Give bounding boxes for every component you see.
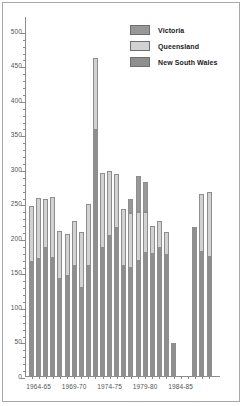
y-axis-label: 100 [4,303,22,310]
bar-segment-new-south-wales [72,266,77,376]
bar-segment-new-south-wales [114,228,119,376]
bar-segment-queensland [57,231,62,279]
x-tick [88,376,89,379]
y-tick [23,143,25,144]
y-tick [23,150,25,151]
bar-1977-78 [128,199,133,376]
y-tick [23,261,25,262]
bar-segment-queensland [143,212,148,253]
bar-1967-68 [57,231,62,376]
y-axis-label: 350 [4,131,22,138]
bar-1987-88 [199,194,204,376]
bar-segment-new-south-wales [50,258,55,376]
x-tick [103,376,104,379]
bar-segment-new-south-wales [192,227,197,376]
bar-segment-new-south-wales [136,261,141,376]
bar-1979-80 [143,182,148,376]
y-tick [23,95,25,96]
x-tick [145,376,146,379]
bar-segment-new-south-wales [150,254,155,376]
x-tick [188,376,189,379]
y-axis-label: 0 [4,373,22,380]
bar-segment-queensland [136,212,141,261]
bar-segment-queensland [164,232,169,255]
bar-1971-72 [86,204,91,376]
bar-1980-81 [150,226,155,376]
y-tick [23,88,25,89]
y-tick [23,219,25,220]
bar-segment-queensland [128,213,133,268]
y-tick [23,109,25,110]
y-axis-label: 50 [4,338,22,345]
chart-legend: Victoria Queensland New South Wales [130,22,234,70]
x-tick [74,376,75,379]
y-tick [23,226,25,227]
x-tick [46,376,47,379]
y-tick [23,185,25,186]
bar-1973-74 [100,173,105,376]
y-tick [23,302,25,303]
legend-item-queensland: Queensland [130,38,234,54]
y-tick [23,123,25,124]
bar-segment-victoria [128,199,133,213]
x-tick [166,376,167,379]
y-tick [23,295,25,296]
y-tick [23,60,25,61]
bar-1982-83 [164,232,169,376]
y-tick [23,164,25,165]
x-axis-label: 1974-75 [97,383,122,390]
x-tick [138,376,139,379]
bar-segment-queensland [79,232,84,287]
x-axis-label: 1984-85 [168,383,193,390]
x-tick [174,376,175,379]
y-tick [23,81,25,82]
x-axis-label: 1979-80 [133,383,158,390]
bar-segment-queensland [199,194,204,251]
bar-segment-new-south-wales [79,288,84,376]
y-tick [23,323,25,324]
bar-segment-new-south-wales [65,276,70,376]
y-tick [23,330,25,331]
x-tick [60,376,61,379]
bar-1983-84 [171,343,176,376]
y-tick [23,316,25,317]
bar-segment-queensland [107,171,112,236]
y-tick [23,116,25,117]
x-tick [53,376,54,379]
y-axis-label: 150 [4,269,22,276]
bar-segment-queensland [86,204,91,266]
bar-1966-67 [50,197,55,377]
bar-1969-70 [72,221,77,376]
y-tick [23,350,25,351]
plot-area: 050100150200250300350400450500 1964-6519… [25,17,221,379]
bar-segment-new-south-wales [107,236,112,376]
y-tick [23,254,25,255]
bar-segment-new-south-wales [128,268,133,376]
x-tick [159,376,160,379]
bar-segment-queensland [93,58,98,129]
chart-frame: 050100150200250300350400450500 1964-6519… [2,2,240,402]
y-axis-label: 400 [4,96,22,103]
x-tick [117,376,118,379]
bar-1976-77 [121,209,126,376]
y-tick [23,212,25,213]
y-tick [23,281,25,282]
y-tick [23,371,25,372]
bar-1968-69 [65,234,70,376]
bar-1975-76 [114,174,119,376]
bar-1972-73 [93,58,98,376]
bar-1963-64 [29,206,34,376]
x-tick [209,376,210,379]
bar-segment-queensland [50,197,55,258]
x-tick [32,376,33,379]
bar-segment-new-south-wales [100,248,105,376]
x-tick [81,376,82,379]
bar-segment-new-south-wales [36,259,41,376]
bar-segment-queensland [150,226,155,254]
y-tick [23,192,25,193]
legend-label-victoria: Victoria [158,27,184,34]
y-tick [23,74,25,75]
legend-swatch-queensland [130,41,150,51]
bar-segment-queensland [157,221,162,249]
bar-segment-queensland [207,192,212,257]
